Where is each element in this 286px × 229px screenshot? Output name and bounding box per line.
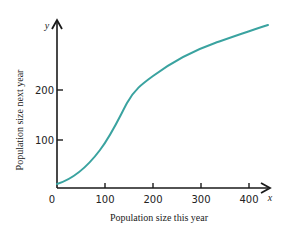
x-tick-label-400: 400 — [239, 194, 258, 205]
x-tick-label-200: 200 — [143, 194, 162, 205]
y-axis-title: Population size next year — [14, 69, 25, 170]
x-tick-label-300: 300 — [191, 194, 210, 205]
origin-label: 0 — [49, 194, 55, 205]
chart-canvas: 0 100 200 300 400 100 200 y x Population… — [0, 0, 286, 229]
population-curve — [57, 25, 268, 184]
y-tick-label-100: 100 — [35, 135, 54, 146]
y-tick-label-200: 200 — [35, 85, 54, 96]
y-axis-variable: y — [44, 20, 50, 31]
x-axis-variable: x — [267, 192, 273, 203]
x-tick-label-100: 100 — [95, 194, 114, 205]
x-axis-title: Population size this year — [110, 212, 209, 223]
